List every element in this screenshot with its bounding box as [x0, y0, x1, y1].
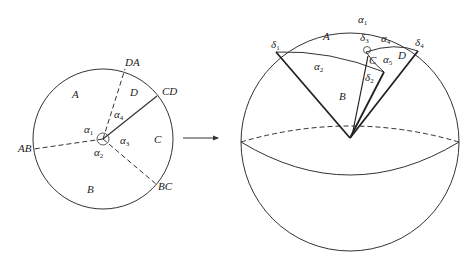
- delta-label-4: δ4: [415, 36, 424, 50]
- boundary-cd-line: [103, 96, 157, 139]
- angle-label-alpha4: α4: [114, 108, 124, 122]
- transform-arrow: [183, 136, 219, 141]
- boundary-label-cd: CD: [162, 85, 177, 97]
- boundary-label-ab: AB: [17, 142, 32, 154]
- region-label-a-sphere: A: [322, 30, 330, 42]
- arrow-head-icon: [213, 136, 219, 141]
- equator-front: [241, 142, 459, 175]
- region-label-d: D: [129, 86, 138, 98]
- region-label-b: B: [87, 183, 94, 195]
- arc-label-alpha5: α5: [383, 53, 393, 67]
- arc-label-alpha4: α4: [381, 32, 391, 46]
- region-label-c: C: [154, 133, 162, 145]
- delta-label-1: δ1: [271, 38, 280, 52]
- angle-label-alpha3: α3: [120, 134, 130, 148]
- angle-label-alpha1: α1: [84, 123, 94, 137]
- region-label-d-sphere: D: [397, 49, 406, 61]
- boundary-bc-line: [103, 139, 156, 184]
- angle-label-alpha2: α2: [94, 146, 104, 160]
- diagram-canvas: A B C D AB BC CD DA α1 α2 α3 α4 A B C D: [0, 0, 471, 263]
- delta-label-2: δ2: [365, 71, 374, 85]
- right-sphere-diagram: A B C D α1 α2 α4 α5 δ1 δ2 δ3 δ4: [241, 13, 459, 251]
- left-circle-diagram: A B C D AB BC CD DA α1 α2 α3 α4: [17, 56, 177, 209]
- boundary-label-bc: BC: [158, 180, 173, 192]
- region-label-b-sphere: B: [339, 90, 346, 102]
- region-label-c-sphere: C: [369, 54, 377, 66]
- sphere-outline: [241, 33, 459, 251]
- delta-label-3: δ3: [360, 31, 369, 45]
- arc-label-alpha2: α2: [314, 60, 324, 74]
- boundary-label-da: DA: [124, 56, 140, 68]
- delta3-marker: [364, 47, 371, 54]
- boundary-da-line: [103, 69, 125, 139]
- boundary-ab-line: [34, 139, 103, 149]
- region-label-a: A: [71, 88, 79, 100]
- equator-back: [241, 126, 459, 142]
- arc-label-alpha1: α1: [358, 13, 368, 27]
